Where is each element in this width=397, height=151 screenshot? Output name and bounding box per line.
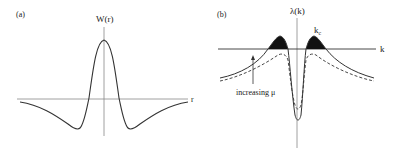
panel-b-label: (b) (217, 10, 227, 19)
panel-a: (a) W(r) r (16, 10, 194, 136)
figure: (a) W(r) r (b) λ(k) k increasing μ kc (0, 0, 397, 151)
kc-subscript: c (319, 30, 322, 36)
kc-label: kc (314, 25, 322, 36)
panel-b: (b) λ(k) k increasing μ kc (217, 6, 385, 148)
shaded-region-right (306, 36, 326, 49)
increasing-mu-label: increasing μ (236, 88, 275, 97)
w-of-r-axis-label: W(r) (96, 14, 114, 24)
arrow-head-icon (251, 55, 255, 60)
shaded-region-left (268, 36, 288, 49)
k-axis-label: k (380, 44, 385, 54)
panel-a-label: (a) (16, 10, 25, 19)
r-axis-label: r (191, 95, 194, 104)
lambda-axis-label: λ(k) (290, 6, 305, 16)
